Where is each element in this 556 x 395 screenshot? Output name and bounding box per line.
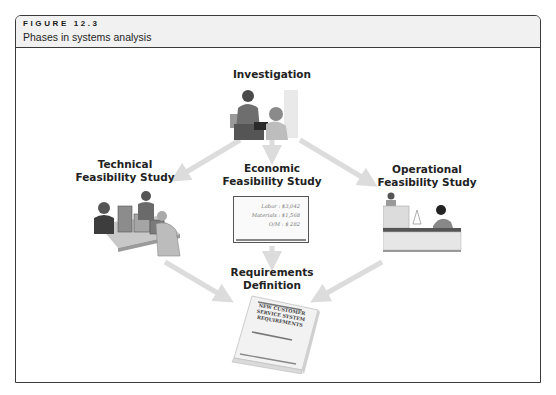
investigation-illustration xyxy=(228,86,300,140)
board-tray xyxy=(236,239,306,241)
board-materials: Materials : $1,568 xyxy=(252,212,300,218)
operational-label: Operational Feasibility Study xyxy=(372,163,482,189)
operational-illustration xyxy=(383,192,463,254)
board-labor: Labor : $3,042 xyxy=(261,203,300,209)
arrow-operational-requirements xyxy=(318,262,382,298)
requirements-label: Requirements Definition xyxy=(220,266,324,292)
technical-label: Technical Feasibility Study xyxy=(70,158,180,184)
cost-whiteboard: Labor : $3,042 Materials : $1,568 O/M : … xyxy=(233,196,309,243)
board-om: O/M : $ 282 xyxy=(269,221,300,227)
arrow-technical-requirements xyxy=(165,262,226,298)
investigation-label: Investigation xyxy=(222,68,322,81)
economic-label: Economic Feasibility Study xyxy=(215,162,329,188)
technical-illustration xyxy=(88,190,188,262)
